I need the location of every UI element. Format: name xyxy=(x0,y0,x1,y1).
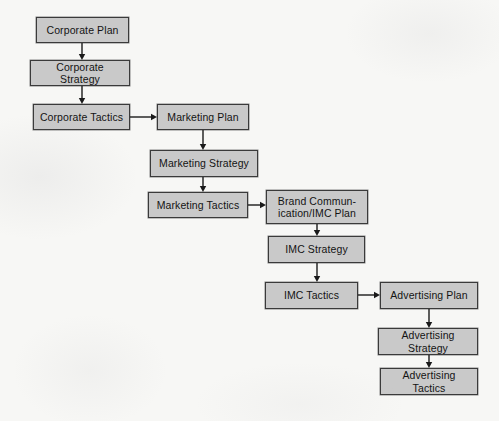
node-brand-communication[interactable]: Brand Commun- ication/IMC Plan xyxy=(266,190,368,224)
node-corporate-tactics[interactable]: Corporate Tactics xyxy=(33,104,130,130)
node-label: Marketing Tactics xyxy=(153,199,244,212)
node-label: Corporate Tactics xyxy=(36,111,127,124)
connector-arrow xyxy=(311,224,323,236)
node-marketing-strategy[interactable]: Marketing Strategy xyxy=(150,150,258,177)
connector-arrow xyxy=(130,111,157,123)
node-marketing-tactics[interactable]: Marketing Tactics xyxy=(148,192,248,218)
node-corporate-strategy[interactable]: Corporate Strategy xyxy=(30,60,130,86)
connector-arrow xyxy=(423,355,435,368)
connector-arrow xyxy=(248,199,266,211)
connector-arrow xyxy=(197,130,209,150)
node-advertising-tactics[interactable]: Advertising Tactics xyxy=(380,368,478,395)
node-label: Marketing Strategy xyxy=(155,157,253,170)
node-label: Advertising Plan xyxy=(386,289,471,302)
node-imc-tactics[interactable]: IMC Tactics xyxy=(265,282,358,309)
node-advertising-plan[interactable]: Advertising Plan xyxy=(380,282,478,309)
connector-arrow xyxy=(76,43,88,60)
node-label: Brand Commun- ication/IMC Plan xyxy=(274,195,360,220)
node-label: Corporate Plan xyxy=(42,24,122,37)
connector-arrow xyxy=(423,309,435,328)
node-corporate-plan[interactable]: Corporate Plan xyxy=(36,17,129,43)
node-label: Advertising Tactics xyxy=(381,369,477,394)
connector-arrow xyxy=(197,177,209,192)
node-advertising-strategy[interactable]: Advertising Strategy xyxy=(378,328,478,355)
node-label: IMC Tactics xyxy=(280,289,343,302)
node-label: IMC Strategy xyxy=(281,243,351,256)
node-label: Corporate Strategy xyxy=(31,61,129,86)
node-imc-strategy[interactable]: IMC Strategy xyxy=(268,236,365,263)
connector-arrow xyxy=(76,86,88,104)
connector-arrow xyxy=(311,263,323,282)
node-label: Marketing Plan xyxy=(163,111,242,124)
diagram-canvas: Corporate PlanCorporate StrategyCorporat… xyxy=(0,0,499,421)
node-label: Advertising Strategy xyxy=(379,329,477,354)
node-marketing-plan[interactable]: Marketing Plan xyxy=(157,104,249,130)
connector-arrow xyxy=(358,289,380,301)
